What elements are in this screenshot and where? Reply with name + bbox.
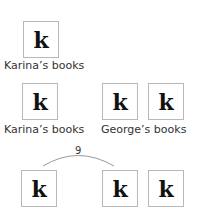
book-icon-box: k bbox=[102, 170, 138, 207]
difference-label: 9 bbox=[75, 145, 81, 156]
book-k-icon: k bbox=[31, 178, 46, 200]
book-k-icon: k bbox=[158, 178, 173, 200]
book-icon-box: k bbox=[21, 170, 57, 207]
book-k-icon: k bbox=[112, 178, 127, 200]
book-icon-box: k bbox=[148, 170, 184, 207]
